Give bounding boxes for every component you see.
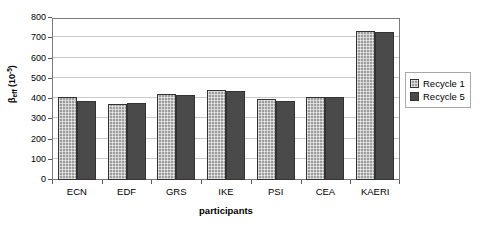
bar[interactable] bbox=[77, 101, 96, 180]
x-tick-label: EDF bbox=[102, 186, 152, 198]
y-tick-label: 800 bbox=[2, 13, 52, 22]
y-tick-label: 0 bbox=[2, 175, 52, 184]
bar[interactable] bbox=[276, 101, 295, 180]
bar[interactable] bbox=[127, 103, 146, 180]
legend-swatch-icon bbox=[410, 92, 419, 101]
y-tick-label: 400 bbox=[2, 94, 52, 103]
x-axis-tick-labels: ECNEDFGRSIKEPSICEAKAERI bbox=[52, 186, 400, 200]
x-tick-mark bbox=[201, 180, 202, 184]
y-axis-ticks: 0100200300400500600700800 bbox=[0, 18, 52, 180]
bar[interactable] bbox=[375, 32, 394, 180]
legend-label: Recycle 1 bbox=[423, 78, 465, 89]
bar[interactable] bbox=[176, 95, 195, 180]
bar[interactable] bbox=[157, 94, 176, 180]
legend-entry[interactable]: Recycle 5 bbox=[410, 90, 465, 103]
legend-label: Recycle 5 bbox=[423, 91, 465, 102]
bar[interactable] bbox=[306, 97, 325, 180]
legend-entry[interactable]: Recycle 1 bbox=[410, 77, 465, 90]
bar-group bbox=[58, 18, 96, 180]
y-tick-label: 100 bbox=[2, 155, 52, 164]
bars-layer bbox=[52, 18, 400, 180]
y-tick-label: 300 bbox=[2, 114, 52, 123]
x-tick-label: GRS bbox=[151, 186, 201, 198]
legend-swatch-icon bbox=[410, 79, 419, 88]
y-tick-label: 700 bbox=[2, 33, 52, 42]
bar-group bbox=[108, 18, 146, 180]
bar[interactable] bbox=[207, 90, 226, 180]
bar-chart-figure: βeff (10-5) 0100200300400500600700800 EC… bbox=[0, 0, 491, 226]
x-tick-mark bbox=[399, 180, 400, 184]
x-tick-mark bbox=[52, 180, 53, 184]
x-axis-ticks bbox=[52, 180, 400, 185]
bar[interactable] bbox=[108, 104, 127, 180]
bar-group bbox=[306, 18, 344, 180]
x-axis-title: participants bbox=[52, 205, 400, 216]
x-tick-mark bbox=[251, 180, 252, 184]
y-tick-label: 200 bbox=[2, 135, 52, 144]
x-tick-mark bbox=[151, 180, 152, 184]
x-tick-label: CEA bbox=[301, 186, 351, 198]
y-tick-label: 600 bbox=[2, 54, 52, 63]
x-tick-mark bbox=[350, 180, 351, 184]
bar[interactable] bbox=[356, 31, 375, 180]
bar-group bbox=[207, 18, 245, 180]
bar-group bbox=[257, 18, 295, 180]
bar-group bbox=[157, 18, 195, 180]
bar-group bbox=[356, 18, 394, 180]
x-tick-label: IKE bbox=[201, 186, 251, 198]
bar[interactable] bbox=[58, 97, 77, 180]
bar[interactable] bbox=[325, 97, 344, 180]
x-tick-mark bbox=[301, 180, 302, 184]
x-tick-label: PSI bbox=[251, 186, 301, 198]
bar[interactable] bbox=[226, 91, 245, 180]
x-tick-mark bbox=[102, 180, 103, 184]
chart-legend: Recycle 1Recycle 5 bbox=[405, 72, 471, 108]
x-tick-label: ECN bbox=[52, 186, 102, 198]
x-tick-label: KAERI bbox=[350, 186, 400, 198]
y-tick-label: 500 bbox=[2, 74, 52, 83]
bar[interactable] bbox=[257, 99, 276, 180]
